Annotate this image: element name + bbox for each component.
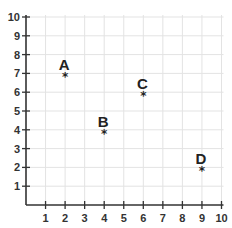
axes xyxy=(26,15,224,205)
point-label: D xyxy=(196,150,207,167)
x-tick-label: 1 xyxy=(42,212,48,224)
y-tick-label: 5 xyxy=(14,105,20,117)
x-tick-label: 9 xyxy=(199,212,205,224)
y-tick-label: 4 xyxy=(14,124,21,136)
y-tick-label: 3 xyxy=(14,143,20,155)
x-tick-label: 10 xyxy=(215,212,227,224)
point-label: C xyxy=(137,75,148,92)
y-tick-label: 9 xyxy=(14,30,20,42)
point-label: B xyxy=(98,113,109,130)
x-tick-label: 6 xyxy=(140,212,146,224)
y-tick-label: 6 xyxy=(14,86,20,98)
x-tick-label: 7 xyxy=(160,212,166,224)
data-points: *A*B*C*D xyxy=(59,56,207,178)
x-tick-label: 4 xyxy=(101,212,108,224)
x-tick-label: 5 xyxy=(121,212,127,224)
grid-lines xyxy=(26,15,224,205)
x-tick-label: 2 xyxy=(62,212,68,224)
point-label: A xyxy=(59,56,70,73)
y-tick-label: 10 xyxy=(8,11,20,23)
data-point-b: *B xyxy=(98,113,109,141)
data-point-a: *A xyxy=(59,56,70,84)
x-tick-label: 3 xyxy=(82,212,88,224)
scatter-chart: 12345678910 12345678910 *A*B*C*D xyxy=(0,0,232,228)
y-tick-label: 8 xyxy=(14,49,20,61)
y-tick-label: 2 xyxy=(14,161,20,173)
data-point-d: *D xyxy=(196,150,207,178)
y-tick-label: 1 xyxy=(14,180,20,192)
x-tick-label: 8 xyxy=(179,212,185,224)
y-tick-label: 7 xyxy=(14,67,20,79)
data-point-c: *C xyxy=(137,75,148,103)
